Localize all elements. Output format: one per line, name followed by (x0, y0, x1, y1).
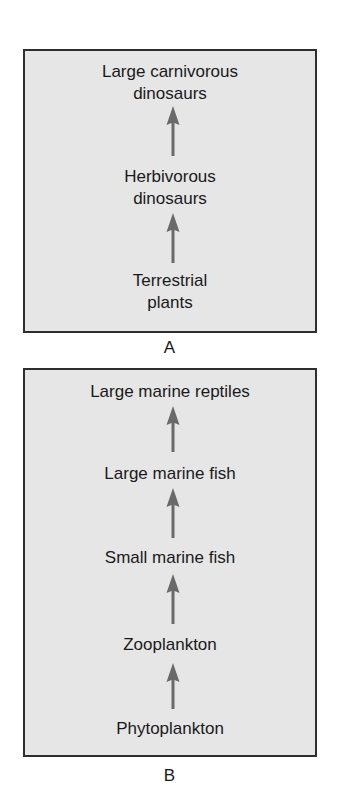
node-phytoplankton: Phytoplankton (25, 718, 315, 740)
arrow-up-icon (166, 406, 180, 452)
node-large-marine-reptiles: Large marine reptiles (25, 381, 315, 403)
node-label-line2: dinosaurs (25, 83, 315, 105)
arrow-up-icon (166, 213, 180, 263)
node-terrestrial-plants: Terrestrial plants (25, 270, 315, 314)
panel-label-a: A (0, 338, 339, 358)
node-label-line1: Large carnivorous (25, 61, 315, 83)
node-label-line1: Herbivorous (25, 166, 315, 188)
node-small-marine-fish: Small marine fish (25, 547, 315, 569)
node-large-carnivorous-dinosaurs: Large carnivorous dinosaurs (25, 61, 315, 105)
arrow-up-icon (166, 663, 180, 709)
node-label-line1: Terrestrial (25, 270, 315, 292)
arrow-up-icon (166, 106, 180, 156)
node-large-marine-fish: Large marine fish (25, 463, 315, 485)
node-label-line2: plants (25, 292, 315, 314)
node-herbivorous-dinosaurs: Herbivorous dinosaurs (25, 166, 315, 210)
panel-label-b: B (0, 766, 339, 786)
arrow-up-icon (166, 488, 180, 538)
arrow-up-icon (166, 574, 180, 624)
node-label-line2: dinosaurs (25, 188, 315, 210)
food-chain-panel-a: Large carnivorous dinosaurs Herbivorous … (23, 49, 317, 333)
food-chain-panel-b: Large marine reptiles Large marine fish … (23, 368, 317, 757)
node-zooplankton: Zooplankton (25, 634, 315, 656)
